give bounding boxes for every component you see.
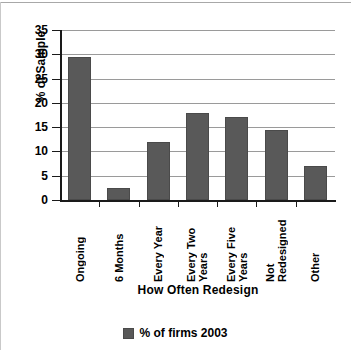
x-axis-category-label: Other — [296, 206, 335, 282]
chart-legend: % of firms 2003 — [0, 327, 351, 339]
x-axis-category-label-line: Years — [197, 206, 209, 282]
x-axis-category-label: NotRedesigned — [256, 206, 295, 282]
plot-area — [60, 30, 335, 200]
x-axis-category-label-line: Every Five — [225, 206, 237, 282]
x-axis-category-label-line: 6 Months — [113, 206, 125, 282]
x-axis-line — [60, 200, 336, 202]
left-border-rule — [0, 2, 1, 350]
x-axis-category-label: 6 Months — [99, 206, 138, 282]
bar-chart-figure: 05101520253035 % of Sample Ongoing6 Mont… — [0, 0, 351, 352]
x-axis-category-label-line: Not — [264, 206, 276, 282]
gridline — [60, 30, 335, 31]
y-axis-tick — [52, 127, 60, 128]
bar — [186, 113, 209, 200]
bar — [265, 130, 288, 200]
y-axis-tick-label: 0 — [20, 194, 48, 206]
x-axis-category-label-line: Years — [237, 206, 249, 282]
x-axis-category-label: Every TwoYears — [178, 206, 217, 282]
y-axis-tick-label: 15 — [20, 121, 48, 133]
x-axis-category-label-line: Redesigned — [276, 206, 288, 282]
x-axis-category-label-line: Every Year — [152, 206, 164, 282]
x-axis-category-label-line: Every Two — [185, 206, 197, 282]
y-axis-tick — [52, 200, 60, 201]
bar — [147, 142, 170, 200]
legend-swatch-firms-2003 — [123, 328, 134, 339]
y-axis-tick — [52, 30, 60, 31]
x-axis-category-labels: Ongoing6 MonthsEvery YearEvery TwoYearsE… — [60, 206, 336, 282]
x-axis-category-label-line: Ongoing — [74, 206, 86, 282]
top-border-rule — [0, 2, 351, 3]
y-axis-tick — [52, 151, 60, 152]
gridline — [60, 103, 335, 104]
bar — [68, 57, 91, 200]
y-axis-tick — [52, 103, 60, 104]
y-axis-tick-label: 10 — [20, 145, 48, 157]
x-axis-category-label: Every Year — [139, 206, 178, 282]
y-axis-tick — [52, 79, 60, 80]
y-axis-tick-label: 5 — [20, 170, 48, 182]
gridline — [60, 79, 335, 80]
x-axis-title: How Often Redesign — [60, 283, 336, 297]
x-axis-category-label: Every FiveYears — [217, 206, 256, 282]
legend-label-firms-2003: % of firms 2003 — [139, 327, 227, 339]
bar — [107, 188, 130, 200]
gridline — [60, 54, 335, 55]
bar — [304, 166, 327, 200]
y-axis-tick — [52, 176, 60, 177]
y-axis-tick — [52, 54, 60, 55]
y-axis-title: % of Sample — [35, 22, 48, 112]
y-axis-line — [60, 30, 62, 201]
bar — [225, 117, 248, 200]
x-axis-category-label-line: Other — [309, 206, 321, 282]
x-axis-category-label: Ongoing — [60, 206, 99, 282]
